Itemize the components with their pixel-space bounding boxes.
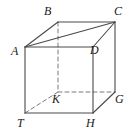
hidden-edges-group (25, 22, 115, 113)
vertex-label-g: G (115, 93, 124, 105)
vertex-label-a: A (11, 45, 18, 57)
geometry-figure: ABCDTKGH (0, 0, 134, 137)
vertex-label-c: C (114, 5, 122, 17)
edge-AB (25, 22, 58, 47)
edge-AC (25, 22, 115, 47)
vertex-label-k: K (52, 93, 60, 105)
vertex-label-t: T (17, 117, 24, 129)
edge-HG (93, 92, 115, 113)
vertex-label-h: H (86, 117, 95, 129)
vertex-label-b: B (44, 5, 51, 17)
vertex-label-d: D (90, 44, 99, 56)
visible-edges-group (25, 22, 115, 113)
